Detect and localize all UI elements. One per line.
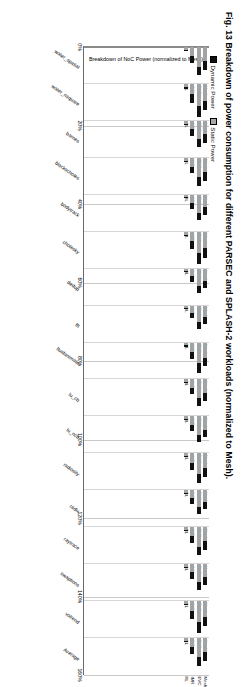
bar-segment-dynamic-power — [184, 530, 188, 531]
bar-segment-dynamic-power — [197, 363, 201, 373]
stacked-bar — [184, 232, 188, 236]
bar-segment-static-power — [190, 158, 194, 167]
stacked-bar — [197, 453, 201, 483]
stacked-bar — [184, 638, 188, 642]
stacked-bar — [197, 47, 201, 75]
bar-row: Mesh — [202, 232, 208, 269]
bar-row: IMR — [189, 232, 195, 269]
bar-row: RL — [183, 195, 189, 232]
bar-segment-dynamic-power — [197, 67, 201, 76]
bar-row: EVC — [196, 84, 202, 121]
x-axis-label-cell: water_spatial — [2, 46, 82, 83]
stacked-bar — [203, 343, 207, 367]
legend-swatch-dynamic-power — [210, 56, 217, 63]
bar-segment-static-power — [197, 564, 201, 582]
x-axis-label-cell: lu_cb — [2, 379, 82, 416]
bar-groups: MeshEVCIMRRLMeshEVCIMRRLMeshEVCIMRRLMesh… — [84, 47, 209, 675]
stacked-bar — [197, 490, 201, 514]
bar-segment-dynamic-power — [190, 94, 194, 103]
bar-row: Mesh — [202, 601, 208, 638]
bar-row: EVC — [196, 638, 202, 675]
bar-segment-dynamic-power — [197, 139, 201, 147]
figure-number: Fig. 13 — [224, 12, 234, 40]
bar-segment-dynamic-power — [190, 352, 194, 360]
bar-segment-dynamic-power — [184, 456, 188, 457]
stacked-bar — [203, 195, 207, 215]
bar-group: MeshEVCIMRRL — [84, 638, 209, 675]
bar-row: RL — [183, 416, 189, 453]
bar-row: IMR — [189, 47, 195, 84]
bar-group: MeshEVCIMRRL — [84, 601, 209, 638]
x-axis-label-cell: barnes — [2, 120, 82, 157]
stacked-bar — [197, 158, 201, 187]
bar-row: IMR — [189, 84, 195, 121]
stacked-bar — [184, 453, 188, 457]
bar-segment-static-power — [197, 343, 201, 364]
bar-label-imr: IMR — [189, 676, 195, 684]
bar-segment-static-power — [197, 47, 201, 67]
bar-group: MeshEVCIMRRL — [84, 121, 209, 158]
bar-segment-static-power — [203, 527, 207, 541]
bar-segment-static-power — [197, 416, 201, 434]
stacked-bar — [190, 527, 194, 543]
bar-segment-static-power — [197, 269, 201, 287]
stacked-bar — [203, 269, 207, 289]
bar-segment-dynamic-power — [197, 582, 201, 590]
stacked-bar — [184, 527, 188, 531]
bar-segment-static-power — [203, 306, 207, 318]
stacked-bar — [203, 158, 207, 181]
bar-segment-dynamic-power — [203, 430, 207, 438]
stacked-bar — [184, 490, 188, 493]
stacked-bar — [197, 306, 201, 329]
bar-segment-dynamic-power — [203, 502, 207, 509]
stacked-bar — [203, 379, 207, 400]
stacked-bar — [197, 121, 201, 147]
bar-row: RL — [183, 232, 189, 269]
stacked-bar — [190, 379, 194, 394]
bar-segment-static-power — [197, 638, 201, 657]
bar-row: IMR — [189, 158, 195, 195]
bar-row: EVC — [196, 343, 202, 380]
stacked-bar — [203, 47, 207, 70]
bar-segment-static-power — [203, 269, 207, 281]
bar-row: Mesh — [202, 343, 208, 380]
bar-segment-dynamic-power — [184, 604, 188, 605]
bar-row: RL — [183, 453, 189, 490]
bar-segment-dynamic-power — [190, 572, 194, 578]
bar-row: RL — [183, 638, 189, 675]
stacked-bar — [190, 306, 194, 319]
stacked-bar — [184, 379, 188, 383]
bar-row: Mesh — [202, 379, 208, 416]
stacked-bar — [184, 121, 188, 125]
bar-row: EVC — [196, 379, 202, 416]
stacked-bar — [197, 84, 201, 117]
stacked-bar — [197, 379, 201, 406]
bar-row: RL — [183, 158, 189, 195]
stacked-bar — [197, 601, 201, 633]
bar-segment-static-power — [203, 416, 207, 429]
stacked-bar — [203, 84, 207, 110]
bar-segment-dynamic-power — [190, 313, 194, 319]
bar-group: MeshEVCIMRRL — [84, 306, 209, 343]
bar-segment-dynamic-power — [190, 167, 194, 174]
x-axis-label-cell: volrend — [2, 601, 82, 638]
bar-row: IMR — [189, 601, 195, 638]
stacked-bar — [190, 84, 194, 103]
bar-row: Mesh — [202, 158, 208, 195]
bar-segment-dynamic-power — [197, 547, 201, 556]
bar-segment-dynamic-power — [203, 207, 207, 215]
bar-row: RL — [183, 601, 189, 638]
bar-segment-dynamic-power — [190, 647, 194, 654]
bar-segment-dynamic-power — [203, 317, 207, 324]
legend-item-dynamic-power: Dynamic Power — [210, 56, 217, 109]
bar-segment-dynamic-power — [197, 474, 201, 483]
bar-segment-dynamic-power — [184, 382, 188, 383]
stacked-bar — [197, 269, 201, 293]
bar-row: Mesh — [202, 47, 208, 84]
bar-segment-static-power — [203, 195, 207, 208]
bar-segment-dynamic-power — [203, 652, 207, 661]
bar-row: IMR — [189, 379, 195, 416]
bar-segment-static-power — [197, 158, 201, 177]
bar-segment-dynamic-power — [184, 271, 188, 272]
